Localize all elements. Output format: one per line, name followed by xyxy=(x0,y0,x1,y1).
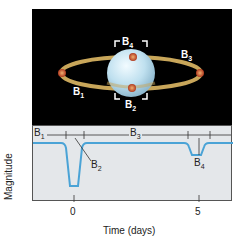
orbit-diagram-panel: B4 B3 B1 B2 xyxy=(32,9,232,125)
light-curve-graph: B1 B3 B2 B4 xyxy=(32,125,232,201)
label-b1: B1 xyxy=(73,86,84,99)
x-axis-label: Time (days) xyxy=(103,225,155,236)
label-b4: B4 xyxy=(122,36,133,49)
label-b3: B3 xyxy=(181,49,192,62)
graph-label-b3: B3 xyxy=(129,127,142,140)
graph-label-b1: B1 xyxy=(34,127,45,140)
x-tick-0: 0 xyxy=(70,206,76,217)
graph-label-b2: B2 xyxy=(91,159,102,172)
label-b2: B2 xyxy=(125,99,136,112)
companion-b4 xyxy=(129,53,137,61)
companion-b1 xyxy=(58,69,66,77)
x-tick-5: 5 xyxy=(195,206,201,217)
companion-b3 xyxy=(196,69,204,77)
companion-b2 xyxy=(128,84,136,92)
graph-label-b4: B4 xyxy=(194,157,205,170)
y-axis-label: Magnitude xyxy=(3,153,14,200)
